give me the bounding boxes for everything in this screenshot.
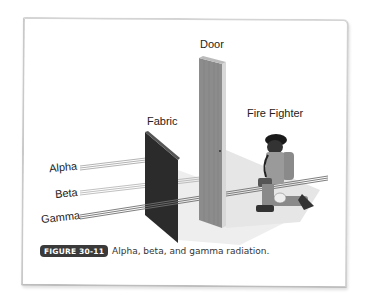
door-knob xyxy=(219,150,221,152)
door-label: Door xyxy=(200,38,224,50)
fire-fighter-label: Fire Fighter xyxy=(247,107,303,119)
beta-label: Beta xyxy=(55,186,79,200)
caption-text: Alpha, beta, and gamma radiation. xyxy=(112,246,269,256)
fabric-label: Fabric xyxy=(147,115,178,127)
figure-number-badge: FIGURE 30-11 xyxy=(40,245,108,257)
fire-fighter-figure xyxy=(256,134,314,212)
alpha-beam xyxy=(80,158,146,170)
fabric-panel xyxy=(145,132,178,243)
alpha-label: Alpha xyxy=(49,160,78,174)
figure-caption: FIGURE 30-11 Alpha, beta, and gamma radi… xyxy=(40,245,269,257)
door-panel xyxy=(199,58,222,228)
